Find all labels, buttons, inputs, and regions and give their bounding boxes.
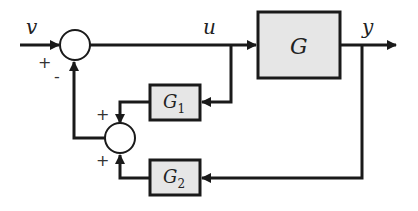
block-G-label: G: [290, 34, 308, 59]
feedback-to-sum1: [74, 62, 105, 138]
sum-junction-2: [105, 123, 135, 153]
sum1-plus-sign: +: [38, 53, 51, 72]
block-diagram: v + - u G y G1 + + G2: [0, 0, 418, 211]
input-label-v: v: [26, 15, 38, 39]
G2-to-sum2: [120, 155, 150, 178]
sum2-bottom-plus-sign: +: [96, 151, 109, 170]
sum-junction-1: [60, 30, 90, 60]
sum1-minus-sign: -: [54, 67, 60, 86]
output-label-y: y: [361, 15, 374, 39]
G1-to-sum2: [120, 102, 150, 123]
u-branch-to-G1: [202, 45, 231, 102]
control-label-u: u: [203, 15, 216, 39]
sum2-top-plus-sign: +: [96, 105, 109, 124]
